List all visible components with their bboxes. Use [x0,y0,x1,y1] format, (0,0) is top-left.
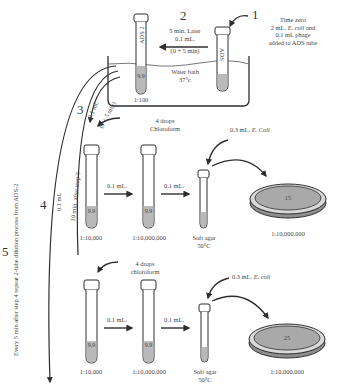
row1-transfer1: 0.1 mL. [102,182,132,190]
row2-chloroform-line1: 4 drops [120,260,170,268]
row1-tube1-volume: 9.9 [86,208,97,215]
row1-soft-agar-line2: 50°C [184,242,224,250]
ads2-volume: 9.9 [136,73,146,80]
row1-tube1-dilution: 1:10,000 [71,234,111,242]
row1-chloroform-label: 4 drops Chloroform [140,117,190,132]
row2-chloroform-label: 4 drops chloroform [120,260,170,275]
step1-line4: added to ADS tube [248,39,338,47]
row2-tube1-dilution: 1:10,000 [71,368,111,376]
ads2-label: ADS 2 [138,26,145,44]
row2-soft-agar-line1: Soft agar [185,368,225,376]
ads2-dilution: 1:100 [126,96,156,104]
ads-label: ADS [219,48,226,61]
water-bath-line2: 37°c [160,76,210,84]
row2-tube2-dilution: 1:10,000,000 [124,368,174,376]
water-bath-label: Water bath 37°c [160,68,210,83]
step3-number: 3 [77,102,84,118]
row2-chloroform-line2: chloroform [120,268,170,276]
row2-soft-agar-line2: 50°C [185,376,225,384]
row1-ecoli-label: 0.3 mL. E. Coli [230,126,300,134]
row1-graphics [84,118,326,228]
row1-chloroform-line2: Chloroform [140,125,190,133]
step4-arc [77,71,118,255]
row1-chloroform-line1: 4 drops [140,117,190,125]
step2-line2: 0.1 mL. [160,35,210,43]
step2-number: 2 [180,8,187,24]
step1-line1: Time zero [248,16,338,24]
row1-plate-dilution: 1:10,000,000 [262,230,314,238]
step4-number: 4 [40,197,47,213]
step2-description: 5 min. Later 0.1 mL. (0 + 5 min) [160,27,210,55]
row1-soft-agar: Soft agar 50°C [184,234,224,249]
row1-plate-count: 15 [278,194,298,202]
phage-growth-diagram: 1 Time zero 2 mL. E. coli and 0.1 mL pha… [0,0,338,392]
step5-description: Every 5 min after step 4 repeat 2-tube d… [12,184,19,356]
row2-soft-agar: Soft agar 50°C [185,368,225,383]
row2-plate-dilution: 1:10,000,000 [261,368,313,376]
step1-line2: 2 mL. E. coli and [248,24,338,32]
row2-tube1-volume: 9.9 [86,342,97,349]
step4-volume: 0.1 mL [55,193,62,211]
row2-tube2-volume: 9.9 [143,342,154,349]
step2-line3: (0 + 5 min) [160,47,210,55]
row2-transfer1: 0.1 mL. [102,316,132,324]
row2-transfer2: 0.1 mL. [159,316,189,324]
step1-line3: 0.1 mL phage [248,31,338,39]
row1-tube2-volume: 9.9 [143,208,154,215]
row2-ecoli-label: 0.3 mL. E. coli [232,273,302,281]
step2-line1: 5 min. Later [160,27,210,35]
row1-soft-agar-line1: Soft agar [184,234,224,242]
row1-tube2-dilution: 1:10,000,000 [124,234,174,242]
water-bath-line1: Water bath [160,68,210,76]
step1-description: Time zero 2 mL. E. coli and 0.1 mL phage… [248,16,338,47]
row1-transfer2: 0.1 mL. [159,182,189,190]
step1-arrow [230,16,248,26]
row2-plate-count: 25 [277,334,297,342]
step5-number: 5 [2,244,9,260]
